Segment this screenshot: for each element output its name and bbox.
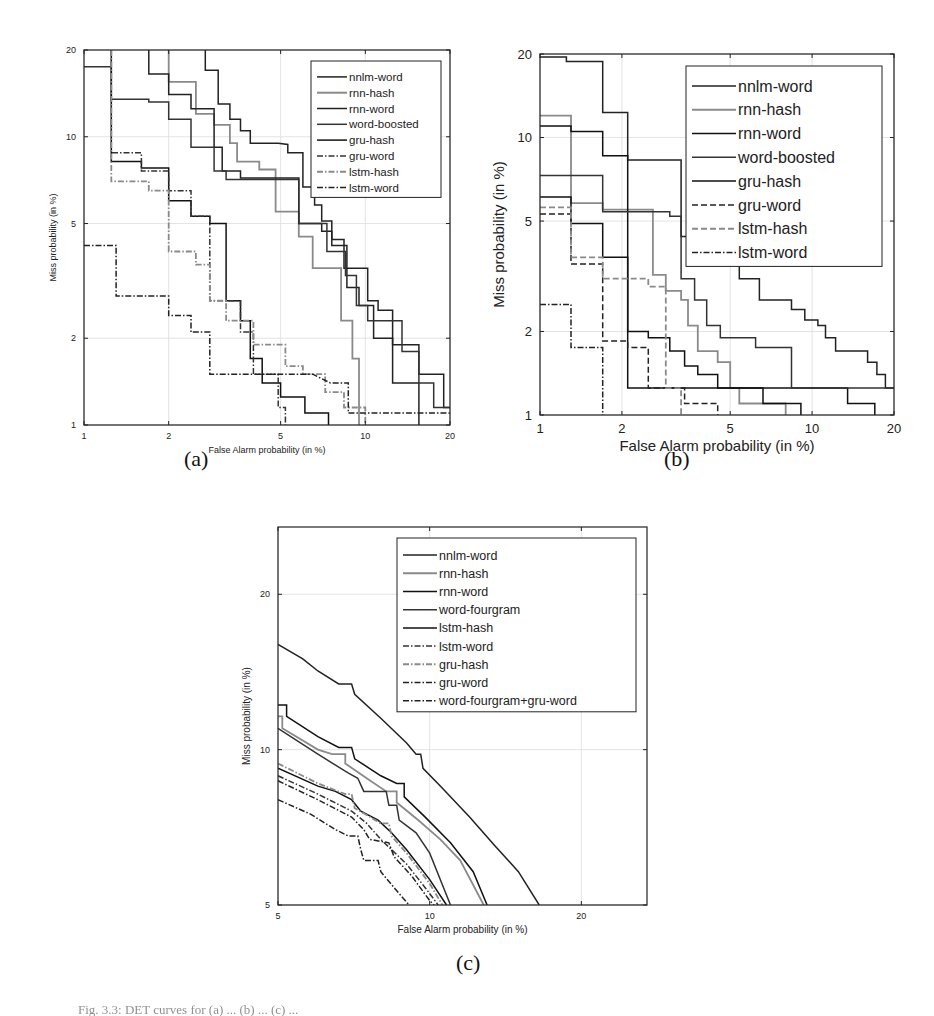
y-tick-label: 20 — [260, 589, 270, 599]
legend-label: lstm-hash — [349, 166, 399, 178]
legend-label: lstm-word — [738, 244, 807, 261]
x-tick-label: 20 — [576, 911, 586, 921]
legend-label: gru-word — [349, 150, 394, 162]
x-tick-label: 10 — [805, 421, 819, 436]
det-chart-b: 12510201251020False Alarm probability (i… — [464, 0, 934, 470]
x-axis-label: False Alarm probability (in %) — [208, 445, 325, 455]
x-tick-label: 10 — [360, 431, 370, 441]
y-tick-label: 5 — [525, 214, 532, 229]
legend-label: gru-word — [439, 676, 488, 690]
legend-label: nnlm-word — [738, 78, 813, 95]
legend-label: rnn-word — [738, 125, 801, 142]
legend: nnlm-wordrnn-hashrnn-wordword-fourgramls… — [397, 538, 636, 712]
y-tick-label: 10 — [518, 130, 532, 145]
series-rnn-hash — [278, 716, 484, 905]
legend-label: gru-hash — [738, 173, 801, 190]
y-tick-label: 5 — [71, 219, 76, 229]
legend-label: rnn-hash — [738, 101, 801, 118]
series-rnn-word — [278, 705, 487, 905]
y-axis-label: Miss probability (in %) — [48, 193, 58, 281]
x-tick-label: 20 — [445, 431, 455, 441]
series-lstm-word — [540, 305, 603, 415]
y-tick-label: 5 — [265, 900, 270, 910]
legend-label: word-boosted — [737, 149, 835, 166]
det-chart-c: 5102051020False Alarm probability (in %)… — [200, 480, 700, 940]
legend: nnlm-wordrnn-hashrnn-wordword-boostedgru… — [686, 66, 882, 266]
x-axis-label: False Alarm probability (in %) — [619, 437, 814, 454]
legend-label: lstm-hash — [738, 220, 807, 237]
x-tick-label: 5 — [278, 431, 283, 441]
y-tick-label: 1 — [71, 420, 76, 430]
legend-label: word-fourgram — [438, 603, 520, 617]
y-tick-label: 20 — [518, 47, 532, 62]
x-tick-label: 2 — [166, 431, 171, 441]
figure-caption: Fig. 3.3: DET curves for (a) ... (b) ...… — [78, 1002, 918, 1016]
legend-label: gru-word — [738, 197, 801, 214]
x-tick-label: 20 — [887, 421, 901, 436]
legend-label: rnn-hash — [349, 87, 394, 99]
y-tick-label: 10 — [260, 745, 270, 755]
legend-label: nnlm-word — [349, 71, 403, 83]
legend-label: rnn-word — [349, 103, 394, 115]
x-tick-label: 10 — [425, 911, 435, 921]
x-tick-label: 1 — [536, 421, 543, 436]
x-tick-label: 5 — [727, 421, 734, 436]
legend-label: word-fourgram+gru-word — [438, 694, 577, 708]
y-axis-label: Miss probability (in %) — [490, 161, 507, 308]
legend-label: gru-hash — [349, 134, 394, 146]
x-tick-label: 1 — [81, 431, 86, 441]
series-gru-word — [111, 50, 285, 425]
sublabel-c: (c) — [456, 950, 480, 976]
legend: nnlm-wordrnn-hashrnn-wordword-boostedgru… — [311, 61, 441, 197]
det-chart-a: 12510201251020False Alarm probability (i… — [0, 0, 470, 470]
legend-label: gru-hash — [439, 658, 488, 672]
legend-label: rnn-word — [439, 585, 488, 599]
legend-label: nnlm-word — [439, 549, 497, 563]
series-gru-hash — [111, 50, 328, 425]
legend-label: rnn-hash — [439, 567, 488, 581]
x-tick-label: 2 — [618, 421, 625, 436]
legend-label: lstm-word — [439, 640, 493, 654]
series-lstm-word — [84, 245, 450, 413]
legend-label: lstm-hash — [439, 621, 493, 635]
y-tick-label: 1 — [525, 408, 532, 423]
series-word-fourgram-gru-word — [278, 800, 409, 905]
sublabel-a: (a) — [184, 446, 208, 472]
y-tick-label: 2 — [525, 324, 532, 339]
x-axis-label: False Alarm probability (in %) — [397, 924, 527, 935]
y-axis-label: Miss probability (in %) — [241, 667, 252, 765]
chart-panel-a: 12510201251020False Alarm probability (i… — [0, 0, 470, 470]
y-tick-label: 2 — [71, 333, 76, 343]
y-tick-label: 10 — [66, 132, 76, 142]
series-gru-word — [278, 781, 434, 905]
y-tick-label: 20 — [66, 45, 76, 55]
sublabel-b: (b) — [664, 446, 690, 472]
legend-label: lstm-word — [349, 182, 399, 194]
x-tick-label: 5 — [275, 911, 280, 921]
chart-panel-c: 5102051020False Alarm probability (in %)… — [200, 480, 700, 940]
chart-panel-b: 12510201251020False Alarm probability (i… — [464, 0, 934, 470]
series-lstm-hash — [540, 207, 681, 415]
legend-label: word-boosted — [348, 118, 419, 130]
